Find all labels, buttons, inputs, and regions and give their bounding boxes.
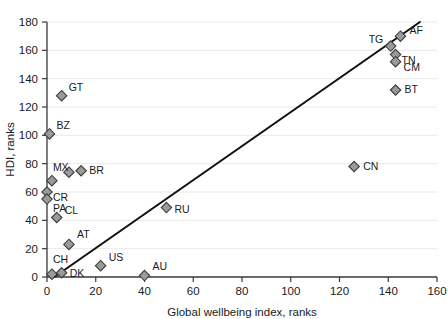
x-tick-label: 80 (236, 285, 249, 297)
data-marker (56, 90, 66, 100)
data-point-label: BR (89, 164, 104, 176)
data-point-label: MX (53, 161, 69, 173)
data-point-label: TG (369, 33, 384, 45)
data-point-label: GT (69, 81, 84, 93)
y-tick-label: 180 (19, 16, 38, 28)
data-point-label: RU (174, 203, 189, 215)
data-point-label: AU (153, 260, 168, 272)
data-markers (42, 31, 406, 281)
y-tick-label: 100 (19, 129, 38, 141)
data-point-label: US (109, 251, 124, 263)
x-tick-label: 140 (379, 285, 398, 297)
y-tick-label: 80 (25, 158, 38, 170)
trend-line (54, 22, 420, 277)
data-marker (42, 194, 52, 204)
data-marker (44, 129, 54, 139)
x-tick-label: 0 (44, 285, 50, 297)
data-point-label: CN (363, 160, 378, 172)
gridlines (47, 22, 437, 249)
data-point-label: CH (53, 253, 68, 265)
data-marker (139, 270, 149, 280)
x-tick-label: 40 (138, 285, 151, 297)
data-point-label: AF (409, 24, 422, 36)
data-marker (161, 202, 171, 212)
data-marker (385, 41, 395, 51)
data-marker (390, 85, 400, 95)
data-marker (64, 239, 74, 249)
x-tick-label: 120 (330, 285, 349, 297)
data-marker (390, 56, 400, 66)
scatter-chart: 020406080100120140160 020406080100120140… (0, 0, 448, 319)
y-tick-label: 60 (25, 186, 38, 198)
data-point-label: CL (65, 204, 79, 216)
data-point-label: AT (77, 228, 90, 240)
y-tick-label: 20 (25, 243, 38, 255)
data-marker (47, 269, 57, 279)
x-tick-label: 100 (281, 285, 300, 297)
y-tick-label: 40 (25, 214, 38, 226)
y-axis-ticks: 020406080100120140160180 (19, 16, 47, 283)
y-tick-label: 120 (19, 101, 38, 113)
data-marker (47, 175, 57, 185)
data-point-label: CM (404, 61, 420, 73)
y-tick-label: 160 (19, 44, 38, 56)
plot-area: 020406080100120140160 020406080100120140… (0, 0, 448, 319)
data-marker (95, 260, 105, 270)
x-axis-ticks: 020406080100120140160 (44, 277, 447, 297)
data-point-label: BT (405, 83, 419, 95)
x-tick-label: 60 (187, 285, 200, 297)
y-tick-label: 140 (19, 73, 38, 85)
y-tick-label: 0 (32, 271, 38, 283)
data-point-label: DK (70, 267, 85, 279)
x-axis-title: Global wellbeing index, ranks (167, 306, 317, 318)
data-marker (76, 166, 86, 176)
x-tick-label: 20 (89, 285, 102, 297)
data-marker (349, 161, 359, 171)
data-point-label: BZ (56, 119, 70, 131)
x-tick-label: 160 (427, 285, 446, 297)
y-axis-title: HDI, ranks (4, 122, 16, 177)
